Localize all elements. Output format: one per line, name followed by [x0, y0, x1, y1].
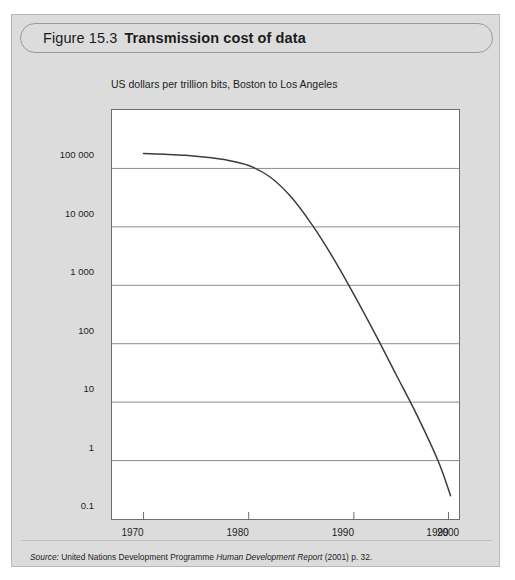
- figure-title-pill: Figure 15.3Transmission cost of data: [20, 23, 493, 53]
- chart-plot-area: [111, 109, 460, 520]
- source-note: Source: United Nations Development Progr…: [30, 552, 372, 562]
- page-title: Figure 15.3Transmission cost of data: [43, 30, 306, 46]
- source-publisher: United Nations Development Programme: [61, 552, 214, 562]
- x-tick-label: 1980: [208, 527, 268, 538]
- y-tick-label: 100 000: [24, 149, 94, 160]
- source-citation: (2001) p. 32.: [325, 552, 373, 562]
- source-label: Source:: [30, 552, 59, 562]
- source-publication: Human Development Report: [216, 552, 322, 562]
- y-tick-label: 10 000: [24, 207, 94, 218]
- y-tick-label: 10: [24, 383, 94, 394]
- y-tick-label: 0.1: [24, 500, 94, 511]
- figure-number: Figure 15.3: [43, 30, 117, 46]
- source-divider: [21, 540, 492, 541]
- x-tick-label: 1970: [103, 527, 163, 538]
- x-tick-label: 2000: [418, 527, 478, 538]
- figure-card: Figure 15.3Transmission cost of data US …: [11, 14, 500, 567]
- data-series-line: [144, 154, 451, 496]
- x-tick-label: 1990: [313, 527, 373, 538]
- figure-title: Transmission cost of data: [124, 30, 305, 46]
- y-tick-label: 1: [24, 441, 94, 452]
- y-tick-label: 100: [24, 324, 94, 335]
- chart-subtitle: US dollars per trillion bits, Boston to …: [111, 78, 337, 90]
- chart-canvas: [112, 110, 459, 519]
- y-tick-label: 1 000: [24, 266, 94, 277]
